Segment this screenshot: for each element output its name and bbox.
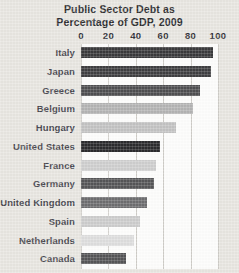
bar-series (81, 44, 218, 269)
bar-row (81, 157, 218, 176)
bar-row (81, 232, 218, 251)
category-label-united-kingdom: United Kingdom (0, 194, 78, 213)
bar-hungary (81, 122, 176, 133)
category-label-italy: Italy (0, 44, 78, 63)
bar-united-kingdom (81, 197, 147, 208)
category-label-canada: Canada (0, 250, 78, 269)
bar-row (81, 44, 218, 63)
category-label-netherlands: Netherlands (0, 232, 78, 251)
bar-france (81, 160, 156, 171)
bar-belgium (81, 103, 193, 114)
bar-row (81, 138, 218, 157)
bar-row (81, 175, 218, 194)
x-tick-label-60: 60 (158, 30, 169, 41)
bar-spain (81, 216, 140, 227)
bar-japan (81, 66, 211, 77)
category-label-spain: Spain (0, 213, 78, 232)
chart-title: Public Sector Debt as Percentage of GDP,… (0, 3, 239, 28)
bar-row (81, 119, 218, 138)
x-tick-label-80: 80 (185, 30, 196, 41)
category-label-hungary: Hungary (0, 119, 78, 138)
category-label-japan: Japan (0, 63, 78, 82)
bar-netherlands (81, 235, 134, 246)
x-tick-label-20: 20 (103, 30, 114, 41)
chart-title-line-2: Percentage of GDP, 2009 (0, 16, 239, 29)
x-tick-label-100: 100 (210, 30, 227, 41)
gridline-100 (218, 44, 219, 269)
bar-canada (81, 253, 126, 264)
x-axis-tick-labels: 020406080100 (81, 30, 218, 44)
bar-row (81, 82, 218, 101)
category-label-greece: Greece (0, 82, 78, 101)
category-label-france: France (0, 157, 78, 176)
bar-row (81, 213, 218, 232)
category-label-belgium: Belgium (0, 100, 78, 119)
bar-italy (81, 47, 213, 58)
x-tick-label-0: 0 (78, 30, 84, 41)
bar-row (81, 250, 218, 269)
bar-row (81, 63, 218, 82)
bar-germany (81, 178, 154, 189)
bar-united-states (81, 141, 160, 152)
bar-row (81, 100, 218, 119)
plot-area (81, 44, 218, 269)
x-tick-label-40: 40 (130, 30, 141, 41)
bar-greece (81, 85, 200, 96)
category-label-united-states: United States (0, 138, 78, 157)
category-label-germany: Germany (0, 175, 78, 194)
category-axis-labels: ItalyJapanGreeceBelgiumHungaryUnited Sta… (0, 44, 78, 269)
bar-row (81, 194, 218, 213)
chart-title-line-1: Public Sector Debt as (0, 3, 239, 16)
